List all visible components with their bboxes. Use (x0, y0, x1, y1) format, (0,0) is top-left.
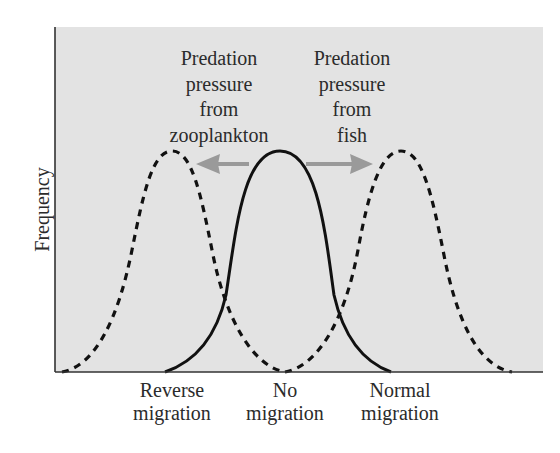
annotation-line: pressure (292, 72, 412, 98)
annotation-line: fish (292, 123, 412, 149)
x-label-line: Reverse (112, 379, 232, 402)
x-label-line: No (225, 379, 345, 402)
annotation-line: Predation (144, 46, 294, 72)
x-label-line: migration (112, 402, 232, 425)
annotation-line: zooplankton (144, 123, 294, 149)
x-label-no-migration: No migration (225, 379, 345, 425)
x-label-line: migration (225, 402, 345, 425)
annotation-line: from (144, 97, 294, 123)
annotation-line: from (292, 97, 412, 123)
x-label-line: Normal (340, 379, 460, 402)
y-axis-label: Frequency (31, 160, 54, 260)
x-label-line: migration (340, 402, 460, 425)
x-label-normal-migration: Normal migration (340, 379, 460, 425)
annotation-line: pressure (144, 72, 294, 98)
annotation-line: Predation (292, 46, 412, 72)
annotation-predation-zooplankton: Predation pressure from zooplankton (144, 46, 294, 148)
x-label-reverse-migration: Reverse migration (112, 379, 232, 425)
migration-frequency-diagram: Predation pressure from zooplankton Pred… (0, 0, 560, 453)
annotation-predation-fish: Predation pressure from fish (292, 46, 412, 148)
